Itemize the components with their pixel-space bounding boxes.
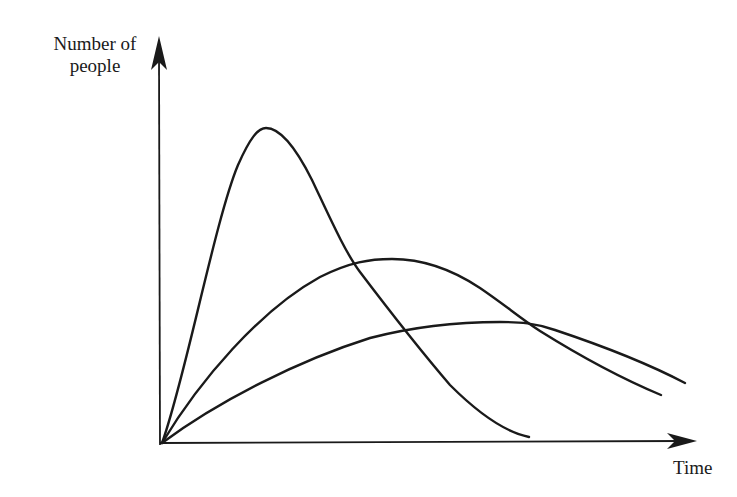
y-axis <box>151 36 167 445</box>
y-axis-label-line-2: people <box>40 55 150 77</box>
y-axis-label: Number of people <box>40 33 150 77</box>
y-axis-label-line-1: Number of <box>40 33 150 55</box>
x-axis-label: Time <box>673 457 712 479</box>
curve-medium-peak <box>162 259 661 443</box>
y-axis-line <box>159 52 160 445</box>
x-axis-line <box>160 441 682 443</box>
x-axis <box>160 433 697 449</box>
